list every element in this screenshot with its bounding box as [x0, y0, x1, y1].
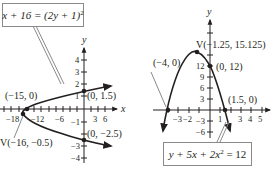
left-x-tick-label: −6: [55, 114, 64, 124]
right-equation-rhs: = 12: [224, 148, 247, 160]
right-point-x-intercept-right: [223, 108, 228, 113]
right-x-tick-label: −3: [173, 114, 182, 124]
right-x-tick-label: 1: [218, 114, 222, 124]
right-x-tick-label: −2: [183, 114, 192, 124]
left-x-tick-label: −18: [6, 114, 19, 124]
left-point-x-intercept: [25, 107, 30, 112]
left-y-tick-label: −4: [71, 153, 81, 163]
right-x-tick-label: 5: [258, 114, 262, 124]
left-y-tick-label: −1: [71, 117, 80, 127]
right-graph: −3 −2 1 3 4 5 y 12 9 6 3 −3 −6: [151, 6, 270, 142]
left-label-y-intercept-top: (0, 1.5): [87, 90, 116, 102]
right-point-y-intercept: [208, 64, 213, 69]
left-label-y-intercept-bottom: (0, −2.5): [87, 128, 122, 140]
left-y-tick-label: 3: [75, 67, 79, 77]
right-x-tick-label: 3: [238, 114, 242, 124]
left-y-tick-label: −3: [71, 141, 80, 151]
right-y-tick-label: 6: [200, 83, 204, 93]
left-equation-box: x + 16 = (2y + 1)2: [2, 3, 84, 27]
right-x-intercept-callout: [151, 72, 166, 107]
right-y-axis-label: y: [206, 6, 212, 17]
left-equation-text: x + 16 = (2y + 1): [2, 9, 80, 21]
right-label-vertex: V(−1.25, 15.125): [196, 39, 266, 51]
left-x-tick-label: 6: [103, 114, 107, 124]
right-y-tick-label: 3: [200, 94, 204, 104]
left-y-tick-label: 2: [75, 79, 79, 89]
right-equation-exponent: 2: [220, 148, 224, 156]
right-equation-callout: [217, 122, 229, 142]
right-label-x-intercept-right: (1.5, 0): [228, 94, 257, 106]
left-point-y-intercept-bottom: [82, 138, 87, 143]
left-equation-exponent: 2: [80, 9, 84, 17]
right-y-tick-label: 12: [196, 61, 205, 71]
left-x-axis-label: x: [120, 103, 126, 114]
left-y-tick-label: 4: [75, 55, 80, 65]
left-equation-callout: [33, 26, 64, 84]
right-equation-box: y + 5x + 2x2 = 12: [163, 142, 252, 166]
left-label-x-intercept: (−15, 0): [5, 90, 37, 102]
right-label-x-intercept-left: (−4, 0): [153, 57, 180, 69]
left-x-tick-label: 3: [93, 114, 97, 124]
left-label-vertex: V(−16, −0.5): [0, 137, 53, 149]
left-point-vertex: [21, 112, 26, 117]
left-graph: x −18 −12 −6 3 6 y: [0, 26, 126, 163]
left-point-y-intercept-top: [82, 89, 87, 94]
right-equation-text: y + 5x + 2x: [169, 148, 221, 160]
right-y-tick-label: 9: [200, 72, 204, 82]
left-y-axis-label: y: [81, 34, 87, 45]
right-label-y-intercept: (0, 12): [216, 61, 243, 73]
right-y-tick-label: −3: [196, 116, 205, 126]
right-x-tick-label: 4: [248, 114, 253, 124]
right-y-tick-label: −6: [196, 127, 205, 137]
right-point-x-intercept-left: [166, 108, 171, 113]
right-point-vertex: [195, 50, 200, 55]
